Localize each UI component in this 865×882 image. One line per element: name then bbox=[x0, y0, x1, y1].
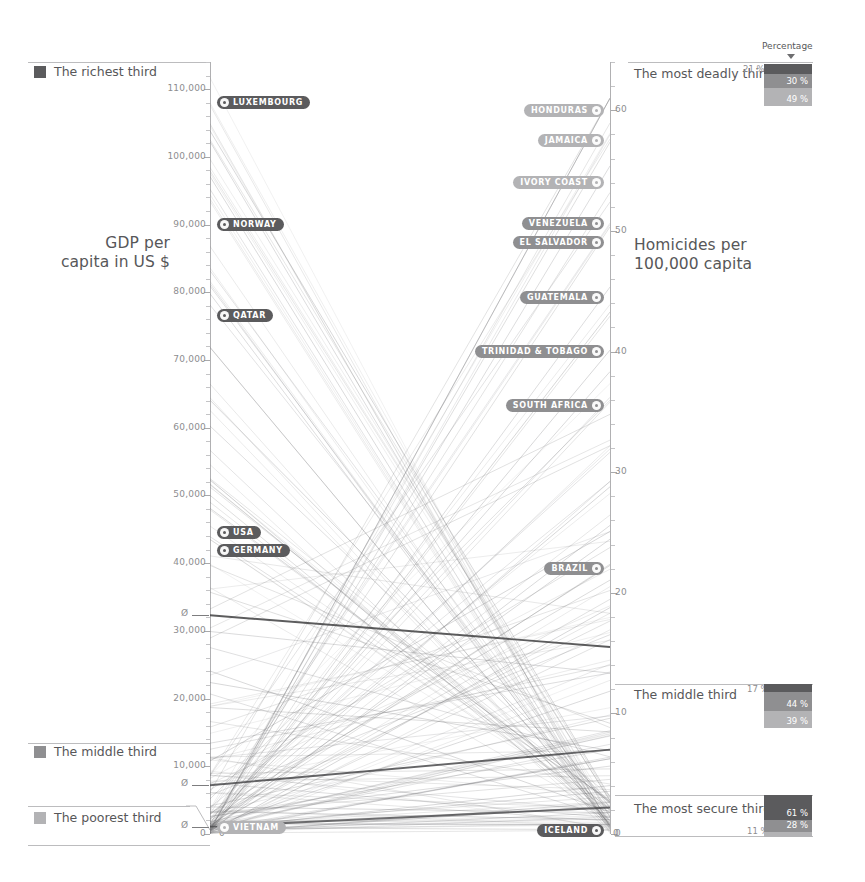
axis-tick-label: 60 bbox=[615, 104, 627, 114]
pct-stack-secure: 61 % 28 % bbox=[764, 795, 812, 837]
country-pill-brazil[interactable]: BRAZIL bbox=[544, 562, 604, 575]
country-pill-label: NORWAY bbox=[229, 220, 281, 229]
axis-tick bbox=[206, 441, 210, 442]
axis-tick bbox=[206, 333, 210, 334]
axis-tick bbox=[206, 807, 210, 808]
country-pill-usa[interactable]: USA bbox=[217, 526, 261, 539]
slope-line bbox=[210, 632, 610, 674]
axis-tick bbox=[206, 455, 210, 456]
axis-tick bbox=[206, 550, 210, 551]
country-pill-honduras[interactable]: HONDURAS bbox=[524, 104, 604, 117]
country-pill-label: TRINIDAD & TOBAGO bbox=[478, 347, 592, 356]
average-symbol: Ø bbox=[181, 820, 188, 830]
axis-tick-label: 40,000 bbox=[150, 557, 206, 567]
country-pill-label: ICELAND bbox=[540, 826, 592, 835]
slope-line bbox=[210, 736, 610, 822]
axis-tick bbox=[206, 184, 210, 185]
axis-tick bbox=[611, 400, 615, 401]
country-pill-label: HONDURAS bbox=[527, 106, 592, 115]
country-pill-iceland[interactable]: ICELAND bbox=[537, 824, 604, 837]
axis-tick bbox=[206, 726, 210, 727]
right-divider-top bbox=[628, 62, 813, 63]
country-pill-guatemala[interactable]: GUATEMALA bbox=[520, 291, 604, 304]
country-pill-label: GUATEMALA bbox=[523, 293, 592, 302]
average-leader bbox=[192, 615, 209, 616]
legend-label: The middle third bbox=[54, 744, 157, 759]
axis-tick bbox=[611, 496, 615, 497]
axis-tick bbox=[206, 739, 210, 740]
country-pill-label: EL SALVADOR bbox=[516, 238, 592, 247]
pct-segment-dark: 61 % bbox=[764, 795, 812, 820]
country-pill-label: IVORY COAST bbox=[516, 178, 592, 187]
country-dot-icon bbox=[220, 546, 229, 555]
country-pill-qatar[interactable]: QATAR bbox=[217, 309, 273, 322]
pct-value: 30 % bbox=[786, 77, 808, 86]
pct-segment-dark bbox=[764, 64, 812, 74]
axis-tick bbox=[611, 786, 615, 787]
average-slope-line bbox=[210, 615, 610, 647]
country-pill-vietnam[interactable]: VIETNAM bbox=[217, 821, 286, 834]
country-pill-luxembourg[interactable]: LUXEMBOURG bbox=[217, 96, 310, 109]
country-pill-label: QATAR bbox=[229, 311, 270, 320]
axis-tick bbox=[206, 712, 210, 713]
country-dot-icon bbox=[592, 238, 601, 247]
legend-item-poorest-third[interactable]: The poorest third bbox=[34, 810, 162, 825]
axis-tick bbox=[206, 685, 210, 686]
slopegraph-figure: The richest third The middle third The p… bbox=[0, 0, 865, 882]
axis-tick-label: 100,000 bbox=[150, 151, 206, 161]
average-symbol: Ø bbox=[181, 608, 188, 618]
legend-swatch-mid bbox=[34, 746, 46, 758]
axis-tick bbox=[206, 62, 210, 63]
left-divider-top bbox=[28, 62, 210, 63]
slope-line bbox=[210, 195, 610, 827]
axis-tick-label: 0 bbox=[150, 828, 206, 838]
axis-tick bbox=[206, 671, 210, 672]
axis-tick bbox=[611, 520, 615, 521]
country-pill-el-salvador[interactable]: EL SALVADOR bbox=[513, 236, 604, 249]
axis-tick bbox=[206, 130, 210, 131]
country-dot-icon bbox=[592, 106, 601, 115]
slope-line bbox=[210, 139, 610, 775]
axis-tick bbox=[611, 641, 615, 642]
country-dot-icon bbox=[592, 826, 601, 835]
country-dot-icon bbox=[592, 401, 601, 410]
legend-item-middle-third[interactable]: The middle third bbox=[34, 744, 157, 759]
axis-tick bbox=[611, 62, 615, 63]
country-dot-icon bbox=[592, 178, 601, 187]
country-pill-label: VIETNAM bbox=[229, 823, 283, 832]
legend-item-richest-third[interactable]: The richest third bbox=[34, 64, 157, 79]
country-dot-icon bbox=[592, 136, 601, 145]
left-divider-bottom bbox=[28, 806, 190, 807]
country-dot-icon bbox=[592, 293, 601, 302]
axis-tick bbox=[611, 424, 615, 425]
axis-tick-label: 40 bbox=[615, 346, 627, 356]
axis-tick bbox=[206, 577, 210, 578]
axis-tick bbox=[611, 327, 615, 328]
axis-tick bbox=[206, 820, 210, 821]
average-symbol: Ø bbox=[181, 778, 188, 788]
axis-tick bbox=[611, 665, 615, 666]
country-pill-norway[interactable]: NORWAY bbox=[217, 218, 284, 231]
axis-tick bbox=[206, 509, 210, 510]
country-pill-label: JAMAICA bbox=[541, 136, 592, 145]
country-dot-icon bbox=[220, 823, 229, 832]
slope-line bbox=[210, 620, 610, 705]
country-pill-trinidad-tobago[interactable]: TRINIDAD & TOBAGO bbox=[475, 345, 604, 358]
axis-tick-label: 70,000 bbox=[150, 354, 206, 364]
country-pill-ivory-coast[interactable]: IVORY COAST bbox=[513, 176, 604, 189]
axis-tick-label: 80,000 bbox=[150, 286, 206, 296]
country-pill-venezuela[interactable]: VENEZUELA bbox=[522, 217, 604, 230]
country-pill-label: GERMANY bbox=[229, 546, 287, 555]
country-pill-jamaica[interactable]: JAMAICA bbox=[538, 134, 604, 147]
axis-tick bbox=[206, 604, 210, 605]
chevron-down-icon bbox=[787, 54, 795, 59]
pct-segment-light: 39 % bbox=[764, 711, 812, 728]
pct-segment-dark bbox=[764, 684, 812, 692]
axis-tick-label: 0 bbox=[613, 828, 619, 838]
country-dot-icon bbox=[220, 98, 229, 107]
pct-segment-mid: 30 % bbox=[764, 74, 812, 88]
average-leader bbox=[192, 827, 209, 828]
axis-tick bbox=[206, 279, 210, 280]
country-pill-south-africa[interactable]: SOUTH AFRICA bbox=[506, 399, 604, 412]
country-pill-germany[interactable]: GERMANY bbox=[217, 544, 290, 557]
